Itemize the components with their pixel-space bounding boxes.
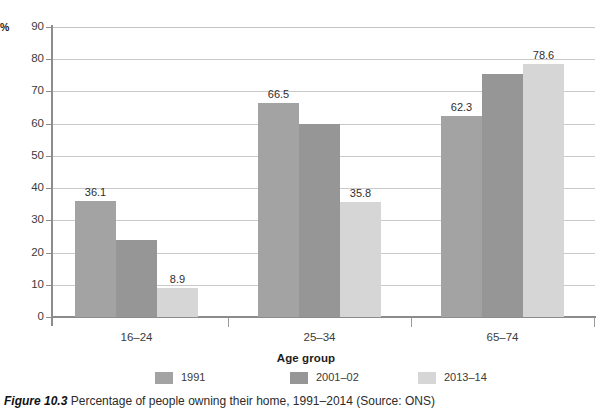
legend-label: 2013–14 xyxy=(444,370,487,384)
y-axis-tick-label: 70 xyxy=(0,84,44,96)
bar-value-label: 78.6 xyxy=(513,49,574,61)
y-axis-tick-label: 30 xyxy=(0,213,44,225)
x-axis-title: Age group xyxy=(0,352,612,364)
y-axis-tick-label: 20 xyxy=(0,246,44,258)
x-axis-group-tick xyxy=(594,318,595,327)
bar-1991-6574 xyxy=(441,116,482,317)
bar-201314-1624 xyxy=(157,288,198,317)
legend-swatch-icon xyxy=(290,372,308,384)
y-axis-stub xyxy=(51,317,53,326)
y-axis-tick-label: 60 xyxy=(0,117,44,129)
bar-value-label: 66.5 xyxy=(248,88,309,100)
bars-layer xyxy=(52,27,595,317)
y-axis-tick-label: 90 xyxy=(0,20,44,32)
bar-201314-6574 xyxy=(523,64,564,317)
legend-label: 1991 xyxy=(181,370,205,384)
figure-caption-text: Percentage of people owning their home, … xyxy=(71,394,435,408)
figure-caption: Figure 10.3 Percentage of people owning … xyxy=(4,393,608,409)
bar-value-label: 35.8 xyxy=(330,187,391,199)
y-axis-tick-label: 80 xyxy=(0,52,44,64)
figure-number: Figure 10.3 xyxy=(4,394,67,408)
x-axis-category-label: 25–34 xyxy=(270,331,370,343)
legend-swatch-icon xyxy=(155,372,173,384)
y-axis-tick-label: 40 xyxy=(0,181,44,193)
x-axis-group-tick xyxy=(411,318,412,327)
legend-swatch-icon xyxy=(418,372,436,384)
y-axis-tick-label: 10 xyxy=(0,278,44,290)
x-axis-category-label: 16–24 xyxy=(87,331,187,343)
legend-label: 2001–02 xyxy=(316,370,359,384)
bar-200102-2534 xyxy=(299,124,340,317)
bar-value-label: 62.3 xyxy=(431,101,492,113)
bar-value-label: 36.1 xyxy=(65,186,126,198)
bar-1991-2534 xyxy=(258,103,299,317)
y-axis-tick-label: 50 xyxy=(0,149,44,161)
x-axis-category-label: 65–74 xyxy=(453,331,553,343)
figure-container: % 9080706050403020100 36.18.966.535.862.… xyxy=(0,0,612,417)
bar-201314-2534 xyxy=(340,202,381,317)
bar-1991-1624 xyxy=(75,201,116,317)
chart-legend: 19912001–022013–14 xyxy=(0,370,612,388)
y-axis-tick-label: 0 xyxy=(0,310,44,322)
bar-value-label: 8.9 xyxy=(147,273,208,285)
top-cutoff-artifact xyxy=(300,0,480,7)
x-axis-group-tick xyxy=(228,318,229,327)
